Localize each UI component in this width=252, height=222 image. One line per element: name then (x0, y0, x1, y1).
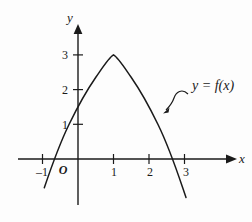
x-tick-label-1: 1 (111, 165, 117, 179)
x-axis-name-label: x (238, 151, 245, 166)
x-tick-label-2: 2 (147, 165, 153, 179)
y-axis-name-label: y (65, 10, 73, 25)
x-tick-label-3: 3 (183, 165, 189, 179)
y-tick-label-1: 1 (62, 118, 68, 132)
y-tick-label-3: 3 (62, 48, 68, 62)
y-axis-arrowhead (74, 24, 83, 34)
y-tick-label-2: 2 (62, 83, 68, 97)
pointer-arrowhead (163, 108, 170, 114)
graph-figure: y x O –1 1 2 3 1 2 3 y = f(x) (0, 0, 252, 222)
annotation-pointer (163, 91, 188, 113)
x-tick-label-minus1: –1 (35, 165, 48, 179)
x-axis-arrowhead (226, 155, 237, 164)
origin-label: O (59, 163, 68, 177)
pointer-curve-line (166, 91, 188, 110)
y-axis (74, 24, 83, 205)
curve-annotation-label: y = f(x) (190, 78, 234, 94)
x-axis (18, 155, 237, 164)
graph-svg: y x O –1 1 2 3 1 2 3 y = f(x) (0, 0, 252, 222)
